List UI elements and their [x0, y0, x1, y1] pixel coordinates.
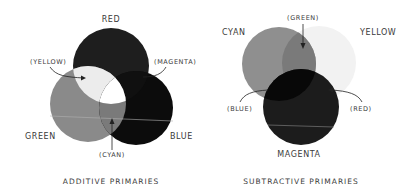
label-blue: BLUE [170, 132, 193, 141]
label-magenta: MAGENTA [277, 150, 320, 159]
label-green: (GREEN) [287, 14, 319, 22]
label-cyan: CYAN [222, 28, 246, 37]
caption-subtractive: SUBTRACTIVE PRIMARIES [243, 177, 359, 186]
label-yellow: YELLOW [359, 28, 396, 37]
label-green: GREEN [25, 132, 56, 141]
caption-additive: ADDITIVE PRIMARIES [63, 177, 159, 186]
subtractive-diagram: (GREEN) CYAN YELLOW (BLUE) (RED) MAGENTA… [222, 14, 396, 186]
label-yellow: (YELLOW) [30, 58, 67, 66]
label-magenta: (MAGENTA) [154, 58, 196, 66]
label-cyan: (CYAN) [99, 151, 125, 159]
label-red: RED [102, 15, 121, 24]
label-blue: (BLUE) [227, 105, 252, 113]
color-primaries-diagram: RED (YELLOW) (MAGENTA) GREEN BLUE (CYAN)… [0, 0, 415, 190]
additive-diagram: RED (YELLOW) (MAGENTA) GREEN BLUE (CYAN)… [25, 15, 196, 186]
label-red: (RED) [350, 105, 372, 113]
